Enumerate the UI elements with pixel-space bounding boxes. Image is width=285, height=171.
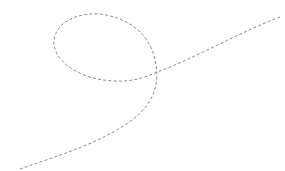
loop-curve-canvas <box>0 0 285 171</box>
dashed-loop-curve <box>20 14 280 169</box>
